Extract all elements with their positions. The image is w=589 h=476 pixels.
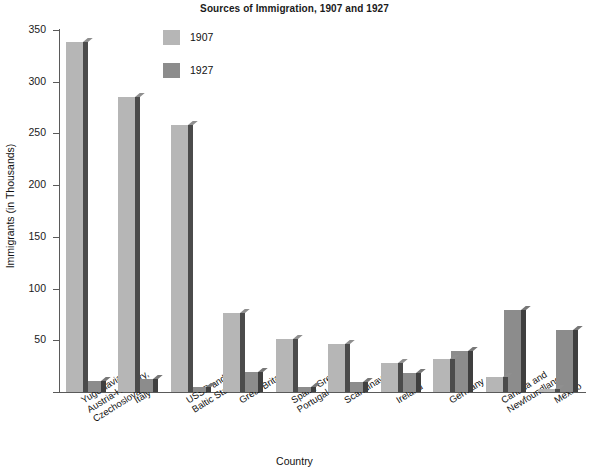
bar-face bbox=[556, 330, 573, 392]
y-tick-mark bbox=[53, 289, 60, 290]
bar-top bbox=[240, 309, 250, 313]
bar-side bbox=[450, 359, 455, 392]
bar-side bbox=[573, 330, 578, 392]
bar-group bbox=[276, 30, 311, 392]
bar-face bbox=[433, 359, 450, 392]
bar-side bbox=[101, 381, 106, 392]
bar-side bbox=[345, 344, 350, 392]
y-tick-mark bbox=[53, 82, 60, 83]
bar-top bbox=[258, 368, 268, 372]
bar-group bbox=[381, 30, 416, 392]
bar-1907-0 bbox=[66, 42, 83, 392]
bar-top bbox=[135, 93, 145, 97]
plot-area bbox=[60, 30, 585, 392]
chart-title: Sources of Immigration, 1907 and 1927 bbox=[0, 3, 589, 14]
legend-swatch bbox=[163, 63, 180, 78]
x-axis-title: Country bbox=[0, 455, 589, 467]
y-tick-mark bbox=[53, 237, 60, 238]
y-tick-mark bbox=[53, 30, 60, 31]
bar-side bbox=[206, 387, 211, 392]
bar-side bbox=[311, 387, 316, 392]
bar-side bbox=[293, 339, 298, 392]
bar-top bbox=[345, 340, 355, 344]
bar-face bbox=[118, 97, 135, 392]
bar-1927-9 bbox=[556, 330, 573, 392]
legend-swatch bbox=[163, 30, 180, 45]
bar-face bbox=[328, 344, 345, 392]
bar-1907-3 bbox=[223, 313, 240, 392]
bar-1907-7 bbox=[433, 359, 450, 392]
bar-group bbox=[118, 30, 153, 392]
bar-face bbox=[223, 313, 240, 392]
bar-group bbox=[328, 30, 363, 392]
y-tick-mark bbox=[53, 392, 60, 393]
bar-side bbox=[468, 351, 473, 392]
bar-side bbox=[416, 373, 421, 392]
bar-group bbox=[66, 30, 101, 392]
y-tick-label: 350 bbox=[0, 23, 46, 35]
bar-group bbox=[433, 30, 468, 392]
y-tick-mark bbox=[53, 340, 60, 341]
y-tick-mark bbox=[53, 185, 60, 186]
bar-top bbox=[153, 375, 163, 379]
bar-face bbox=[171, 125, 188, 392]
y-tick-mark bbox=[53, 133, 60, 134]
legend-label: 1907 bbox=[190, 31, 213, 43]
bar-chart: Sources of Immigration, 1907 and 1927 50… bbox=[0, 0, 589, 476]
bar-side bbox=[555, 389, 560, 392]
bar-top bbox=[188, 121, 198, 125]
bar-1907-4 bbox=[276, 339, 293, 392]
bar-face bbox=[538, 389, 555, 392]
bar-1907-9 bbox=[538, 389, 555, 392]
bar-side bbox=[83, 42, 88, 392]
bar-top bbox=[398, 359, 408, 363]
bar-group bbox=[538, 30, 573, 392]
bar-side bbox=[135, 97, 140, 392]
bar-top bbox=[83, 38, 93, 42]
bar-1907-1 bbox=[118, 97, 135, 392]
bar-face bbox=[66, 42, 83, 392]
bar-face bbox=[276, 339, 293, 392]
bar-side bbox=[258, 372, 263, 392]
bar-1907-8 bbox=[486, 377, 503, 393]
bar-side bbox=[188, 125, 193, 392]
legend-label: 1927 bbox=[190, 64, 213, 76]
y-axis-title: Immigrants (in Thousands) bbox=[4, 71, 16, 341]
bar-side bbox=[398, 363, 403, 392]
bar-side bbox=[521, 310, 526, 392]
bar-top bbox=[573, 326, 583, 330]
bar-top bbox=[468, 347, 478, 351]
bar-1907-6 bbox=[381, 363, 398, 392]
bar-1907-2 bbox=[171, 125, 188, 392]
bar-face bbox=[486, 377, 503, 393]
bar-1907-5 bbox=[328, 344, 345, 392]
bar-side bbox=[153, 379, 158, 392]
bar-face bbox=[381, 363, 398, 392]
bar-top bbox=[521, 306, 531, 310]
bar-side bbox=[240, 313, 245, 392]
bar-side bbox=[363, 382, 368, 392]
bar-group bbox=[223, 30, 258, 392]
bar-top bbox=[293, 335, 303, 339]
bar-group bbox=[171, 30, 206, 392]
bar-side bbox=[503, 377, 508, 393]
bar-top bbox=[416, 369, 426, 373]
bar-group bbox=[486, 30, 521, 392]
